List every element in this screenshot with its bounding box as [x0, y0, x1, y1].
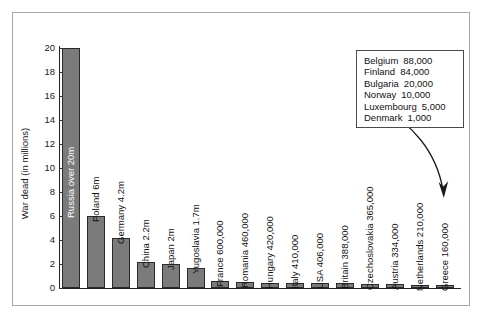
bar-label: Japan 2m	[166, 228, 176, 270]
callout-row: Luxembourg5,000	[364, 101, 457, 112]
y-axis-tick-label: 18	[31, 67, 55, 77]
y-axis-tick-label: 10	[31, 163, 55, 173]
callout-row: Norway10,000	[364, 89, 457, 100]
y-axis-tick-label: 8	[31, 187, 55, 197]
callout-row: Bulgaria20,000	[364, 78, 457, 89]
plot-area: War dead (in millions) 20181614121086420…	[0, 0, 486, 320]
callout-value: 84,000	[400, 66, 429, 77]
bar-label: China 2.2m	[141, 219, 151, 268]
bar-label: Britain 388,000	[340, 225, 350, 289]
y-axis-tick-label: 16	[31, 91, 55, 101]
callout-country: Belgium	[364, 55, 398, 66]
y-axis-tick-label: 12	[31, 139, 55, 149]
chart-figure: War dead (in millions) 20181614121086420…	[0, 0, 486, 320]
y-axis-tick-label: 20	[31, 43, 55, 53]
callout-country: Norway	[364, 89, 396, 100]
bar-label: Italy 410,000	[290, 235, 300, 289]
callout-country: Finland	[364, 66, 395, 77]
bar-label: Greece 160,000	[440, 223, 450, 291]
callout-value: 1,000	[408, 112, 432, 123]
bar-label: USA 406,000	[315, 233, 325, 289]
x-axis-line	[59, 288, 461, 289]
annotation-callout-box: Belgium88,000Finland84,000Bulgaria20,000…	[356, 50, 464, 128]
callout-country: Luxembourg	[364, 101, 417, 112]
bar-label: Poland 6m	[91, 177, 101, 222]
bar-label: Russia over 20m	[66, 147, 76, 218]
y-axis-title: War dead (in millions)	[19, 109, 30, 239]
callout-value: 20,000	[404, 78, 433, 89]
y-axis-tick-label: 4	[31, 235, 55, 245]
bar-label: Romania 460,000	[240, 213, 250, 288]
callout-row: Belgium88,000	[364, 55, 457, 66]
y-axis-tick-label: 6	[31, 211, 55, 221]
bar	[112, 238, 130, 288]
bar-label: Netherlands 210,000	[415, 203, 425, 291]
bar-label: Czechoslovakia 365,000	[365, 186, 375, 290]
callout-value: 88,000	[403, 55, 432, 66]
callout-row: Finland84,000	[364, 66, 457, 77]
y-axis-tick	[59, 288, 63, 289]
bar-label: Hungary 420,000	[265, 216, 275, 289]
bar	[87, 216, 105, 288]
callout-country: Bulgaria	[364, 78, 399, 89]
bar-label: Austria 334,000	[390, 223, 400, 290]
callout-value: 10,000	[401, 89, 430, 100]
y-axis-tick-label: 2	[31, 259, 55, 269]
callout-row: Denmark1,000	[364, 112, 457, 123]
callout-value: 5,000	[422, 101, 446, 112]
bar-label: Germany 4.2m	[116, 181, 126, 244]
callout-country: Denmark	[364, 112, 403, 123]
y-axis-tick-label: 0	[31, 283, 55, 293]
bar-label: Yugoslavia 1.7m	[191, 204, 201, 274]
bar-label: France 600,000	[215, 220, 225, 287]
y-axis-tick-label: 14	[31, 115, 55, 125]
